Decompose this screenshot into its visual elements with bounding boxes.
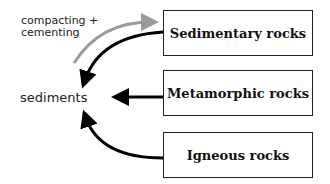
- igneous-rocks-box: Igneous rocks: [163, 132, 313, 178]
- metamorphic-rocks-box: Metamorphic rocks: [163, 70, 313, 116]
- sedimentary-rocks-box: Sedimentary rocks: [163, 10, 313, 56]
- rock-cycle-diagram: compacting + cementing sediments Sedimen…: [0, 0, 330, 184]
- igneous-to-sediments-arrow: [86, 118, 163, 158]
- process-label: compacting + cementing: [21, 15, 98, 39]
- process-label-line2: cementing: [21, 27, 98, 39]
- sediments-label: sediments: [20, 90, 87, 105]
